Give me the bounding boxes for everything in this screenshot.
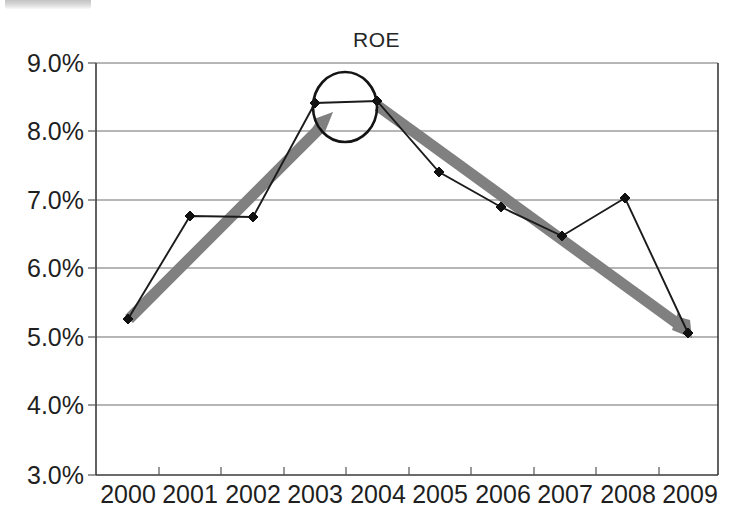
gridlines bbox=[96, 63, 718, 405]
y-tick-label-9: 9.0% bbox=[27, 49, 84, 77]
y-axis-labels: 9.0% 8.0% 7.0% 6.0% 5.0% 4.0% 3.0% bbox=[27, 49, 84, 489]
x-tick-label-2007: 2007 bbox=[537, 480, 593, 508]
data-point-2002 bbox=[248, 212, 258, 222]
chart-plot-area: 9.0% 8.0% 7.0% 6.0% 5.0% 4.0% 3.0% 2000 … bbox=[0, 0, 753, 528]
rising-trend-arrow-shaft bbox=[129, 127, 321, 319]
y-tick-marks bbox=[88, 63, 96, 475]
x-tick-label-2002: 2002 bbox=[225, 480, 281, 508]
x-tick-label-2001: 2001 bbox=[162, 480, 218, 508]
data-point-2008 bbox=[620, 193, 630, 203]
x-tick-label-2005: 2005 bbox=[412, 480, 468, 508]
falling-trend-arrow bbox=[378, 106, 692, 338]
y-tick-label-3: 3.0% bbox=[27, 461, 84, 489]
y-tick-label-7: 7.0% bbox=[27, 186, 84, 214]
x-tick-label-2009: 2009 bbox=[662, 480, 718, 508]
x-tick-label-2004: 2004 bbox=[350, 480, 406, 508]
x-tick-label-2000: 2000 bbox=[100, 480, 156, 508]
series-line-roe bbox=[128, 101, 688, 333]
y-tick-label-6: 6.0% bbox=[27, 254, 84, 282]
y-tick-label-5: 5.0% bbox=[27, 323, 84, 351]
x-tick-label-2008: 2008 bbox=[600, 480, 656, 508]
y-tick-label-8: 8.0% bbox=[27, 117, 84, 145]
rising-trend-arrow bbox=[129, 112, 333, 319]
data-point-2001 bbox=[185, 211, 195, 221]
x-tick-marks bbox=[159, 467, 659, 475]
y-tick-label-4: 4.0% bbox=[27, 391, 84, 419]
roe-chart: ROE bbox=[0, 0, 753, 528]
x-axis-labels: 2000 2001 2002 2003 2004 2005 2006 2007 … bbox=[100, 480, 718, 508]
x-tick-label-2003: 2003 bbox=[287, 480, 343, 508]
x-tick-label-2006: 2006 bbox=[475, 480, 531, 508]
